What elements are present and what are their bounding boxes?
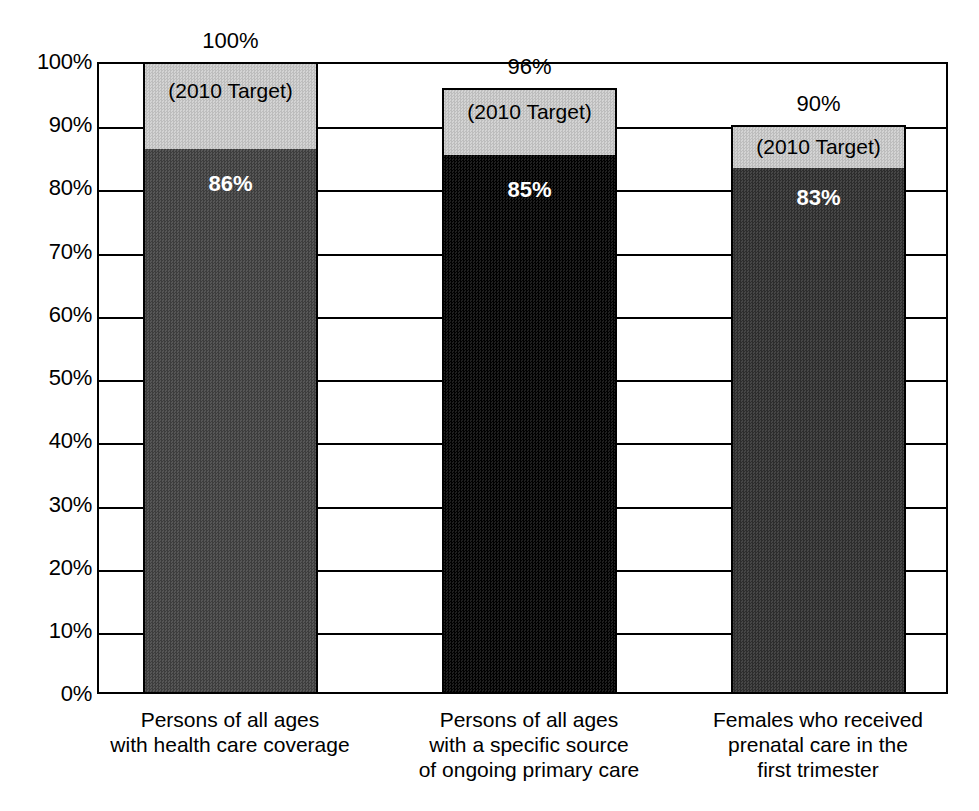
chart-container: 100% 90% 80% 70% 60% 50% 40% 30% 20% 10%… xyxy=(0,0,979,811)
y-axis: 100% 90% 80% 70% 60% 50% 40% 30% 20% 10%… xyxy=(0,62,92,694)
bar-1-target-segment: (2010 Target) xyxy=(145,64,316,153)
bar-2-value-segment: 85% xyxy=(444,155,615,692)
x-category-2-line-2: with a specific source xyxy=(409,732,649,757)
y-tick-80: 80% xyxy=(6,177,92,199)
x-category-3: Females who received prenatal care in th… xyxy=(698,707,938,782)
x-category-1-line-1: Persons of all ages xyxy=(110,707,350,732)
bar-2-value-label: 85% xyxy=(444,179,615,201)
x-category-1-line-2: with health care coverage xyxy=(110,732,350,757)
y-tick-0: 0% xyxy=(6,683,92,705)
bar-2-target-segment: (2010 Target) xyxy=(444,90,615,159)
x-category-2: Persons of all ages with a specific sour… xyxy=(409,707,649,782)
x-category-2-line-1: Persons of all ages xyxy=(409,707,649,732)
bar-1-value-label: 86% xyxy=(145,173,316,195)
bar-3-value-segment: 83% xyxy=(733,168,904,692)
y-tick-10: 10% xyxy=(6,620,92,642)
y-tick-70: 70% xyxy=(6,241,92,263)
bar-3-target-segment: (2010 Target) xyxy=(733,127,904,172)
bar-total-label-3: 90% xyxy=(731,93,906,115)
y-tick-40: 40% xyxy=(6,430,92,452)
bar-total-label-2: 96% xyxy=(442,56,617,78)
bar-3-target-label: (2010 Target) xyxy=(733,136,904,157)
y-tick-20: 20% xyxy=(6,557,92,579)
bar-total-label-1: 100% xyxy=(143,30,318,52)
bar-1[interactable]: (2010 Target) 86% xyxy=(143,62,318,694)
x-category-3-line-2: prenatal care in the xyxy=(698,732,938,757)
bar-3[interactable]: (2010 Target) 83% xyxy=(731,125,906,694)
x-category-3-line-1: Females who received xyxy=(698,707,938,732)
y-tick-100: 100% xyxy=(6,51,92,73)
bar-1-target-label: (2010 Target) xyxy=(145,80,316,101)
bar-2-target-label: (2010 Target) xyxy=(444,101,615,122)
bar-2[interactable]: (2010 Target) 85% xyxy=(442,88,617,694)
bar-3-value-label: 83% xyxy=(733,187,904,209)
x-category-2-line-3: of ongoing primary care xyxy=(409,757,649,782)
y-tick-90: 90% xyxy=(6,114,92,136)
x-category-1: Persons of all ages with health care cov… xyxy=(110,707,350,757)
y-tick-30: 30% xyxy=(6,494,92,516)
y-tick-60: 60% xyxy=(6,304,92,326)
x-category-3-line-3: first trimester xyxy=(698,757,938,782)
bar-1-value-segment: 86% xyxy=(145,149,316,692)
y-tick-50: 50% xyxy=(6,367,92,389)
